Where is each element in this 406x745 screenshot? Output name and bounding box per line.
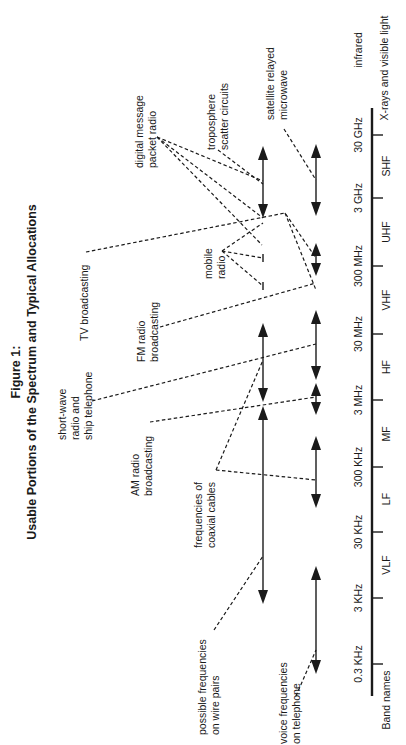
svg-text:Figure 1:: Figure 1:: [9, 346, 23, 399]
svg-text:TV broadcasting: TV broadcasting: [78, 264, 90, 341]
tick-label: 300 MHz: [352, 245, 364, 287]
frequency-axis: 0.3 KHz 3 KHz 30 KHz 300 KHz 3 MHz 30 MH…: [352, 15, 392, 729]
band-label: MF: [380, 426, 392, 441]
tick-label: 3 KHz: [352, 584, 364, 613]
tick-label: 3 MHz: [352, 385, 364, 415]
label-satellite-relayed-microwave: satellite relayed microwave: [264, 47, 289, 120]
label-digital-message-packet-radio: digital message packet radio: [133, 95, 158, 168]
label-am-radio-broadcasting: AM radio broadcasting: [129, 436, 154, 496]
svg-text:broadcasting: broadcasting: [142, 436, 154, 496]
label-voice-frequencies: voice frequencies on telephone: [277, 662, 302, 744]
band-label: X-rays and visible light: [378, 15, 390, 120]
label-coaxial-cables: frequencies of coaxial cables: [192, 482, 217, 548]
label-short-wave-radio: short-wave radio and ship telephone: [56, 372, 94, 440]
band-label: VLF: [380, 555, 392, 574]
svg-text:AM radio: AM radio: [129, 454, 141, 496]
svg-text:broadcasting: broadcasting: [148, 302, 160, 362]
svg-text:mobile: mobile: [202, 248, 214, 279]
figure-title: Figure 1: Usable Portions of the Spectru…: [9, 204, 39, 540]
svg-text:scatter circuits: scatter circuits: [218, 83, 230, 150]
leader-lines: [86, 129, 316, 696]
svg-text:radio and: radio and: [69, 396, 81, 440]
label-fm-radio-broadcasting: FM radio broadcasting: [135, 302, 160, 362]
spectrum-figure: Figure 1: Usable Portions of the Spectru…: [0, 0, 406, 745]
tick-label: 30 KHz: [352, 515, 364, 549]
svg-text:on wire pairs: on wire pairs: [209, 675, 221, 735]
svg-text:digital message: digital message: [133, 95, 145, 168]
svg-text:voice frequencies: voice frequencies: [277, 662, 289, 744]
label-tv-broadcasting: TV broadcasting: [78, 264, 90, 341]
svg-text:packet radio: packet radio: [146, 111, 158, 168]
band-label: UHF: [380, 221, 392, 243]
svg-text:possible frequencies: possible frequencies: [196, 639, 208, 735]
svg-text:frequencies of: frequencies of: [192, 482, 204, 548]
band-names-label: Band names: [380, 671, 392, 730]
band-label: HF: [380, 360, 392, 374]
svg-text:short-wave: short-wave: [56, 388, 68, 440]
svg-text:troposphere: troposphere: [205, 94, 217, 150]
svg-text:microwave: microwave: [277, 70, 289, 120]
svg-text:satellite relayed: satellite relayed: [264, 47, 276, 120]
tick-label: 0.3 KHz: [352, 645, 364, 682]
svg-text:on telephone: on telephone: [290, 683, 302, 744]
label-wire-pairs: possible frequencies on wire pairs: [196, 639, 221, 735]
band-label: SHF: [380, 156, 392, 177]
band-label: LF: [380, 493, 392, 505]
label-troposphere-scatter-circuits: troposphere scatter circuits: [205, 83, 230, 150]
svg-text:ship telephone: ship telephone: [82, 372, 94, 440]
band-label: VHF: [380, 290, 392, 311]
tick-label: 3 GHz: [352, 183, 364, 213]
svg-text:FM radio: FM radio: [135, 320, 147, 362]
tick-label: 30 MHz: [352, 316, 364, 352]
tick-label: infrared: [352, 32, 364, 68]
tick-label: 30 GHz: [352, 117, 364, 153]
svg-text:coaxial cables: coaxial cables: [205, 482, 217, 548]
range-arrows: [258, 144, 321, 674]
svg-text:radio: radio: [215, 255, 227, 279]
tick-label: 300 KHz: [352, 447, 364, 487]
svg-text:Usable Portions of the Spectru: Usable Portions of the Spectrum and Typi…: [25, 204, 39, 540]
